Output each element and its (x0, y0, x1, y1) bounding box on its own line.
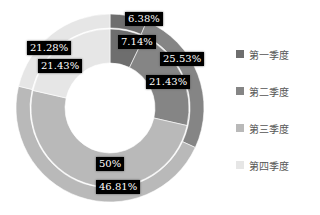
legend-swatch-icon (236, 124, 244, 132)
data-label: 21.43% (146, 75, 190, 89)
data-label: 50% (96, 157, 124, 171)
legend-swatch-icon (236, 161, 244, 169)
legend-item-q4[interactable]: 第四季度 (236, 159, 289, 171)
legend-swatch-icon (236, 87, 244, 95)
legend-label: 第二季度 (249, 84, 289, 99)
legend-item-q1[interactable]: 第一季度 (236, 48, 289, 60)
legend-item-q3[interactable]: 第三季度 (236, 122, 289, 134)
legend-swatch-icon (236, 50, 244, 58)
data-label: 7.14% (118, 35, 156, 49)
legend-item-q2[interactable]: 第二季度 (236, 85, 289, 97)
legend-label: 第一季度 (249, 47, 289, 62)
data-label: 21.28% (27, 41, 71, 55)
data-label: 25.53% (160, 52, 204, 66)
legend: 第一季度 第二季度 第三季度 第四季度 (236, 48, 289, 196)
data-label: 46.81% (96, 180, 140, 194)
data-label: 21.43% (38, 59, 82, 73)
legend-label: 第四季度 (249, 158, 289, 173)
legend-label: 第三季度 (249, 121, 289, 136)
data-label: 6.38% (125, 12, 163, 26)
